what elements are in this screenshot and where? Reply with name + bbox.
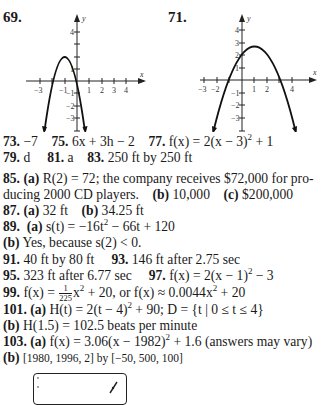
answer-text: H(t) = 2(t − 4): [49, 302, 127, 317]
part-label: (b): [153, 187, 170, 202]
x-axis-label: x: [312, 68, 317, 77]
graph-69: −3 −1 1 2 3 4 1 4 −1 −2 −3 x y: [0, 0, 160, 132]
x-tick-label: 4: [290, 85, 294, 94]
x-tick-label: −2: [211, 85, 220, 94]
answer-text: ducing 2000 CD players.: [3, 187, 139, 202]
answer-text: d: [23, 150, 30, 165]
y-tick-label: −1: [66, 89, 75, 98]
answer-text: 146 ft after 2.75 sec: [132, 252, 240, 267]
answer-text: 34.25 ft: [102, 203, 144, 218]
part-label: (b): [3, 235, 20, 250]
answer-line-85bc: ducing 2000 CD players. (b) 10,000 (c) $…: [3, 187, 293, 203]
answer-line-99: 99. f(x) = 1225x2 + 20, or f(x) ≈ 0.0044…: [3, 284, 245, 303]
answer-number: 83.: [87, 150, 104, 165]
answer-text: H(1.5) = 102.5 beats per minute: [23, 318, 197, 333]
part-label: (c): [224, 187, 239, 202]
answer-line-87: 87. (a) 32 ft (b) 34.25 ft: [3, 203, 144, 219]
y-tick-label: −2: [231, 101, 240, 110]
answer-text: − 66t + 120: [108, 219, 175, 234]
part-label: (b): [3, 350, 20, 365]
answer-text: f(x) =: [23, 285, 58, 300]
x-tick-label: 3: [112, 86, 116, 95]
answer-number: 101.: [3, 302, 27, 317]
answer-text: 323 ft after 6.77 sec: [23, 268, 131, 283]
part-label: (a): [23, 203, 39, 218]
y-tick-label: −3: [66, 114, 75, 123]
answer-text: a: [68, 150, 74, 165]
answer-text: + 1: [252, 134, 273, 149]
answer-line-79-83: 79. d 81. a 83. 250 ft by 250 ft: [3, 150, 192, 166]
answer-text: 40 ft by 80 ft: [23, 252, 94, 267]
answer-text: + 20, or f(x) ≈ 0.0044x: [84, 285, 212, 300]
answer-text: R(2) = 72; the company receives $72,000 …: [43, 171, 314, 186]
part-label: (b): [82, 203, 99, 218]
y-axis-label: y: [246, 14, 251, 23]
answer-line-103a: 103. (a) f(x) = 3.06(x − 1982)2 + 1.6 (a…: [3, 334, 312, 350]
answer-number: 81.: [47, 150, 64, 165]
answer-number: 79.: [3, 150, 20, 165]
y-tick-label: −3: [231, 114, 240, 123]
answer-text: + 1.6 (answers may vary): [170, 334, 312, 349]
answer-line-85a: 85. (a) R(2) = 72; the company receives …: [3, 171, 313, 187]
answer-text: $200,000: [242, 187, 293, 202]
answer-text: Yes, because s(2) < 0.: [23, 235, 142, 250]
answer-text: x: [73, 285, 80, 300]
answer-text: 6x + 3h − 2: [72, 134, 135, 149]
x-tick-label: −3: [34, 86, 43, 95]
answer-line-101a: 101. (a) H(t) = 2(t − 4)2 + 90; D = {t |…: [3, 302, 264, 318]
answer-text: [1980, 1996, 2] by [−50, 500, 100]: [23, 352, 183, 364]
answer-number: 103.: [3, 334, 27, 349]
x-tick-label: 2: [265, 85, 269, 94]
answer-number: 99.: [3, 285, 20, 300]
calculator-screen-graph: [33, 373, 127, 405]
y-tick-label: 4: [235, 26, 239, 35]
answer-number: 77.: [148, 134, 165, 149]
y-axis-label: y: [81, 14, 86, 23]
answer-number: 93.: [111, 252, 128, 267]
answer-text: f(x) = 2(x − 3): [169, 134, 248, 149]
part-label: (a): [27, 219, 43, 234]
answer-number: 85.: [3, 171, 20, 186]
answer-text: f(x) = 3.06(x − 1982): [49, 334, 165, 349]
answer-number: 87.: [3, 203, 20, 218]
y-tick-label: 3: [235, 39, 239, 48]
part-label: (a): [30, 334, 46, 349]
part-label: (a): [23, 171, 39, 186]
answer-number: 75.: [51, 134, 68, 149]
x-tick-label: 1: [252, 85, 256, 94]
answer-text: 10,000: [173, 187, 210, 202]
answer-number: 89.: [3, 219, 20, 234]
answer-line-91-93: 91. 40 ft by 80 ft 93. 146 ft after 2.75…: [3, 252, 240, 268]
answer-number: 73.: [3, 134, 20, 149]
fraction: 1225: [59, 284, 72, 303]
y-tick-label: −2: [66, 102, 75, 111]
answer-text: −7: [23, 134, 37, 149]
answer-number: 97.: [149, 268, 166, 283]
answer-text: f(x) = 2(x − 1): [169, 268, 248, 283]
answer-text: s(t) = −16t: [46, 219, 104, 234]
answer-text: − 3: [252, 268, 273, 283]
x-axis-label: x: [139, 70, 144, 79]
answer-line-73-77: 73. −7 75. 6x + 3h − 2 77. f(x) = 2(x − …: [3, 134, 273, 150]
y-tick-label: −1: [231, 89, 240, 98]
answer-text: + 90; D = {t | 0 ≤ t ≤ 4}: [132, 302, 264, 317]
x-tick-label: −3: [198, 85, 207, 94]
part-label: (a): [30, 302, 46, 317]
answer-line-89a: 89. (a) s(t) = −16t2 − 66t + 120: [3, 219, 175, 235]
x-tick-label: 1: [87, 86, 91, 95]
scatter-plot: [34, 374, 126, 404]
graph-71: −3 −2 1 2 4 1 2 3 4 −1 −2 −3 x y: [160, 0, 328, 132]
x-tick-label: 2: [100, 86, 104, 95]
answer-text: 32 ft: [43, 203, 68, 218]
answer-line-103b: (b) [1980, 1996, 2] by [−50, 500, 100]: [3, 350, 183, 366]
y-tick-label: 4: [70, 28, 74, 37]
answer-text: 250 ft by 250 ft: [108, 150, 193, 165]
answer-number: 91.: [3, 252, 20, 267]
answer-text: + 20: [217, 285, 245, 300]
part-label: (b): [3, 318, 20, 333]
answer-line-95-97: 95. 323 ft after 6.77 sec 97. f(x) = 2(x…: [3, 268, 274, 284]
answer-line-89b: (b) Yes, because s(2) < 0.: [3, 235, 141, 251]
x-tick-label: 4: [124, 86, 128, 95]
answer-number: 95.: [3, 268, 20, 283]
